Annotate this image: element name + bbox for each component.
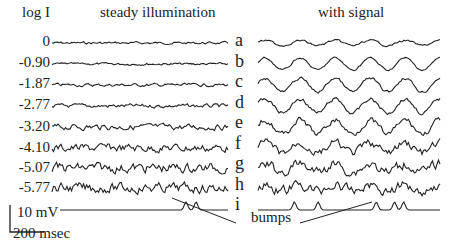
bumps-annotation: bumps [251,210,291,225]
bumps-pointer-right [300,202,372,223]
scale-time-label: 200 msec [13,226,70,241]
scale-voltage-label: 10 mV [17,205,58,220]
scale-bar-and-pointers [0,0,455,247]
bumps-pointer-left [172,198,236,223]
